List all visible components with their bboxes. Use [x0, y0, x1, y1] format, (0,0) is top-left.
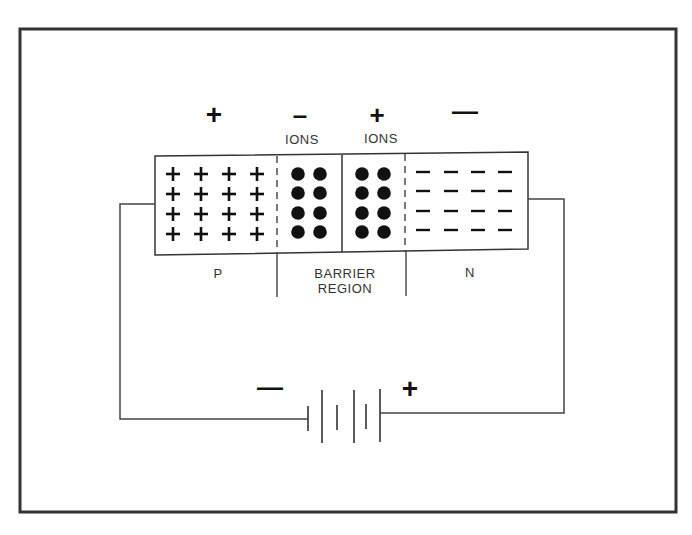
negative-ion-dots	[291, 167, 327, 239]
negative-ions-label: IONS	[285, 132, 319, 147]
positive-ion-dot	[355, 167, 369, 181]
positive-ion-dot	[377, 206, 391, 220]
negative-ion-dot	[291, 225, 305, 239]
hole-plus-icon	[194, 227, 208, 241]
positive-ion-dot	[377, 167, 391, 181]
hole-plus-icon	[250, 167, 264, 181]
battery-negative-terminal-sign: —	[257, 372, 283, 402]
hole-plus-icon	[222, 227, 236, 241]
n-region-electrons	[416, 172, 512, 230]
hole-plus-icon	[194, 167, 208, 181]
hole-plus-icon	[194, 207, 208, 221]
hole-plus-icon	[166, 167, 180, 181]
negative-ion-charge-sign: –	[293, 100, 307, 130]
positive-ion-dot	[377, 186, 391, 200]
hole-plus-icon	[250, 227, 264, 241]
hole-plus-icon	[222, 167, 236, 181]
hole-plus-icon	[222, 187, 236, 201]
positive-ions-label: IONS	[364, 131, 398, 146]
n-side-charge-sign: —	[452, 96, 478, 126]
positive-ion-dots	[355, 167, 391, 239]
hole-plus-icon	[166, 187, 180, 201]
positive-ion-dot	[355, 186, 369, 200]
negative-ion-dot	[291, 167, 305, 181]
hole-plus-icon	[166, 207, 180, 221]
p-region-holes	[166, 167, 264, 241]
battery-icon	[308, 389, 380, 443]
p-side-charge-sign: +	[206, 99, 222, 130]
negative-ion-dot	[313, 186, 327, 200]
hole-plus-icon	[222, 207, 236, 221]
hole-plus-icon	[250, 187, 264, 201]
positive-ion-dot	[377, 225, 391, 239]
positive-ion-dot	[355, 206, 369, 220]
negative-ion-dot	[291, 206, 305, 220]
n-region-label: N	[465, 265, 475, 280]
positive-ion-charge-sign: +	[369, 100, 384, 130]
hole-plus-icon	[194, 187, 208, 201]
barrier-region-label-line2: REGION	[318, 281, 372, 296]
battery-positive-terminal-sign: +	[402, 373, 418, 404]
pn-junction-diagram: + – + — IONS IONS P BARRIER REGION N	[0, 0, 692, 535]
negative-ion-dot	[313, 225, 327, 239]
p-region-label: P	[213, 266, 222, 281]
hole-plus-icon	[166, 227, 180, 241]
hole-plus-icon	[250, 207, 264, 221]
negative-ion-dot	[291, 186, 305, 200]
positive-ion-dot	[355, 225, 369, 239]
negative-ion-dot	[313, 206, 327, 220]
barrier-region-label-line1: BARRIER	[314, 266, 375, 281]
negative-ion-dot	[313, 167, 327, 181]
